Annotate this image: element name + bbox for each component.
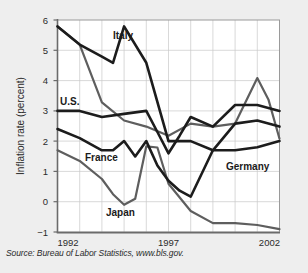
y-axis-title: Inflation rate (percent): [15, 77, 26, 175]
y-tick-label-0: 0: [43, 196, 48, 207]
x-tick-label-1992: 1992: [58, 237, 79, 248]
source-note: Source: Bureau of Labor Statistics, www.…: [6, 248, 184, 258]
x-tick-label-1997: 1997: [158, 237, 179, 248]
y-tick-label-2: 2: [43, 136, 48, 147]
y-tick-label-1: 1: [43, 166, 48, 177]
y-tick-label-neg1: −1: [37, 227, 48, 238]
y-tick-label-5: 5: [43, 45, 48, 56]
series-label-us: U.S.: [60, 96, 80, 107]
x-tick-label-2002: 2002: [259, 237, 280, 248]
y-tick-label-4: 4: [43, 75, 48, 86]
series-label-japan: Japan: [106, 207, 135, 218]
series-label-france: France: [85, 152, 118, 163]
y-tick-label-3: 3: [43, 105, 48, 116]
chart-svg: 6 5 4 3 2 1 0 −1 1992 1997 2002 Inflatio…: [0, 0, 308, 273]
inflation-rate-chart-figure: 6 5 4 3 2 1 0 −1 1992 1997 2002 Inflatio…: [0, 0, 308, 273]
y-tick-label-6: 6: [43, 15, 48, 26]
series-label-germany: Germany: [226, 161, 270, 172]
series-label-italy: Italy: [113, 30, 133, 41]
